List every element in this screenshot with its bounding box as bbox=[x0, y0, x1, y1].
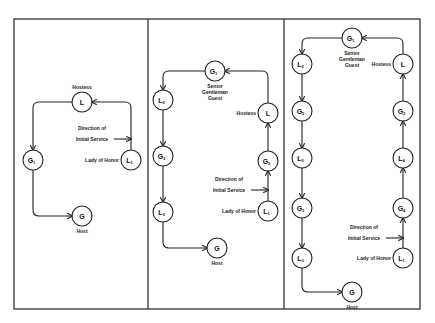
seat-node-hostess: LHostess bbox=[72, 84, 92, 112]
seat-node-l3: L3 bbox=[292, 248, 312, 268]
seat-letter: G bbox=[79, 213, 85, 220]
seat-node-l1: L1Lady of Honor bbox=[357, 248, 413, 268]
seat-label: Host bbox=[211, 260, 222, 266]
seat-node-g5: G5 bbox=[292, 101, 312, 121]
seat-node-g1: G1SeniorGentlemanGuest bbox=[339, 28, 365, 68]
seat-node-hostess: LHostess bbox=[372, 54, 413, 74]
seat-label: Guest bbox=[345, 62, 360, 68]
seat-node-g3: G3 bbox=[292, 198, 312, 218]
direction-label: Direction of bbox=[78, 125, 106, 131]
service-path bbox=[163, 71, 205, 90]
direction-label: Initial Service bbox=[213, 187, 245, 193]
table-service-diagram: LHostessG1L1Lady of HonorGHostG1SeniorGe… bbox=[0, 0, 435, 323]
seat-letter: L bbox=[80, 99, 85, 106]
seat-label: Lady of Honor bbox=[222, 208, 256, 214]
seat-label: Host bbox=[346, 304, 357, 310]
direction-label: Initial Service bbox=[76, 136, 108, 142]
seat-node-l3: L3 bbox=[153, 202, 173, 222]
seat-node-g2: G2 bbox=[258, 151, 278, 171]
service-path bbox=[302, 38, 342, 54]
direction-label: Initial Service bbox=[348, 235, 380, 241]
seat-label: Hostess bbox=[372, 61, 392, 67]
seat-node-g4: G4 bbox=[393, 198, 413, 218]
seat-node-l1: L1Lady of Honor bbox=[85, 150, 141, 170]
service-path bbox=[362, 38, 403, 54]
seat-label: Guest bbox=[208, 95, 223, 101]
nodes-layer: LHostessG1L1Lady of HonorGHostG1SeniorGe… bbox=[23, 28, 413, 310]
seat-letter: G bbox=[349, 289, 355, 296]
seat-node-host: GHost bbox=[207, 238, 227, 266]
seat-node-l2: L2 bbox=[153, 90, 173, 110]
seat-label: Hostess bbox=[237, 110, 257, 116]
service-path bbox=[225, 71, 268, 103]
service-path bbox=[33, 102, 72, 150]
seat-node-g1: G1 bbox=[23, 150, 43, 170]
seat-letter: L bbox=[401, 61, 406, 68]
seat-node-hostess: LHostess bbox=[237, 103, 278, 123]
direction-label: Direction of bbox=[350, 224, 378, 230]
seat-node-l2: L2 bbox=[292, 54, 312, 74]
direction-label: Direction of bbox=[215, 176, 243, 182]
seat-node-g2: G2 bbox=[393, 101, 413, 121]
seat-label: Lady of Honor bbox=[357, 255, 391, 261]
service-path bbox=[33, 170, 72, 216]
service-path bbox=[302, 268, 342, 292]
seat-node-g1: G1SeniorGentlemanGuest bbox=[202, 61, 228, 101]
seat-letter: G bbox=[214, 245, 220, 252]
service-path bbox=[163, 222, 207, 248]
seat-node-host: GHost bbox=[72, 206, 92, 234]
seat-label: Host bbox=[76, 228, 87, 234]
seat-node-l5: L5 bbox=[292, 148, 312, 168]
seat-label: Hostess bbox=[72, 84, 92, 90]
seat-node-l4: L4 bbox=[393, 148, 413, 168]
seat-label: Lady of Honor bbox=[85, 157, 119, 163]
seat-letter: L bbox=[266, 110, 271, 117]
seat-node-g3: G3 bbox=[153, 146, 173, 166]
seat-node-l1: L1Lady of Honor bbox=[222, 201, 278, 221]
seat-node-host: GHost bbox=[342, 282, 362, 310]
